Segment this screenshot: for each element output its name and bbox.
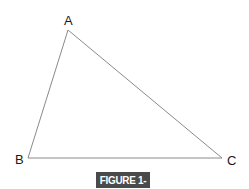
triangle-diagram: A B C <box>0 0 249 189</box>
vertex-label-c: C <box>227 153 236 168</box>
edge-ab <box>28 30 68 158</box>
figure-caption: FIGURE 1-15 <box>96 172 150 188</box>
vertex-label-a: A <box>64 13 73 28</box>
edge-ca <box>68 30 222 158</box>
vertex-label-b: B <box>15 152 24 167</box>
